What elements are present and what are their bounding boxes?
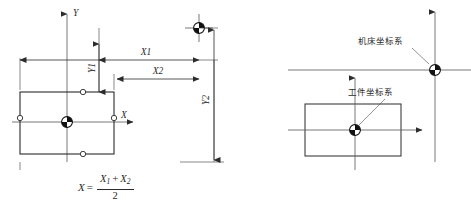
workpiece-datum-symbol <box>62 117 73 128</box>
workpiece-axes-left <box>12 14 133 162</box>
leader-workpiece-coordinate <box>359 99 385 125</box>
workpiece-datum-symbol-right <box>350 125 361 136</box>
dimension-y2-label: Y2 <box>201 95 211 105</box>
label-machine-coordinate-system: 机床坐标系 <box>358 36 403 46</box>
panel-left-x-measurement: X1 X2 Y1 Y2 Y X <box>0 0 240 211</box>
panel-right-y-measurement: 机床坐标系 工件坐标系 Y= Y1+Y2 2 <box>240 0 471 211</box>
probe-point-right <box>111 115 116 120</box>
figure-canvas: X1 X2 Y1 Y2 Y X <box>0 0 471 211</box>
probe-point-left <box>17 115 22 120</box>
formula-x-fraction: X1+X2 2 <box>97 172 134 202</box>
dimension-y1-label: Y1 <box>87 63 97 73</box>
leader-machine-coordinate <box>412 48 429 64</box>
axis-label-x-left: X <box>120 110 128 120</box>
dimension-x2: X2 <box>117 66 199 79</box>
formula-x-num-plus: + <box>110 172 120 184</box>
formula-x-denominator: 2 <box>97 190 134 202</box>
extension-lines-left <box>20 28 224 170</box>
dimension-x1-label: X1 <box>140 47 152 57</box>
formula-x-numerator: X1+X2 <box>97 172 134 188</box>
dimension-y2: Y2 <box>201 30 214 160</box>
dimension-x2-label: X2 <box>152 66 164 76</box>
axis-label-y-left: Y <box>73 8 80 18</box>
probe-point-bottom <box>80 151 85 156</box>
machine-datum-symbol-right <box>430 65 441 76</box>
formula-x-num-second-sub: 2 <box>127 177 131 186</box>
right-diagram-svg: 机床坐标系 工件坐标系 <box>240 0 471 211</box>
dimension-x1: X1 <box>99 47 199 60</box>
formula-x-lhs: X <box>78 181 85 193</box>
probe-point-top <box>80 89 85 94</box>
label-workpiece-coordinate-system: 工件坐标系 <box>348 87 393 97</box>
formula-x: X= X1+X2 2 <box>78 172 134 202</box>
dimension-y1: Y1 <box>20 44 99 92</box>
formula-x-equals: = <box>85 181 95 193</box>
